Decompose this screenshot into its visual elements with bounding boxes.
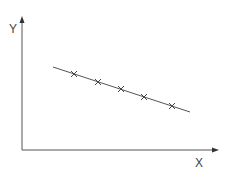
data-point	[169, 103, 175, 109]
y-axis-label: Y	[9, 23, 17, 35]
data-point	[71, 71, 77, 77]
data-point	[141, 94, 147, 100]
y-axis-arrow-icon	[20, 16, 25, 23]
scatter-plot	[0, 0, 229, 179]
x-axis-arrow-icon	[212, 148, 219, 153]
x-axis-label: X	[195, 157, 203, 169]
